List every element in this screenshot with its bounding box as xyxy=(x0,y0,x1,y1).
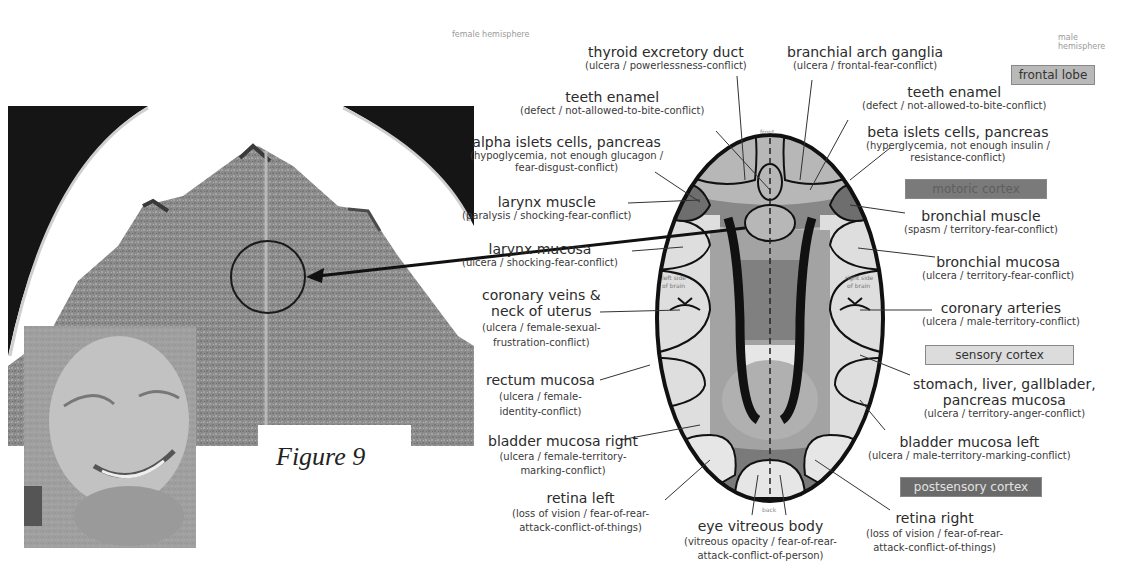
legend-frontal-lobe: frontal lobe xyxy=(1011,65,1095,85)
label-teeth-left: teeth enamel (defect / not-allowed-to-bi… xyxy=(520,89,704,117)
label-alpha-islets: alpha islets cells, pancreas (hypoglycem… xyxy=(470,134,663,173)
label-rectum-mucosa: rectum mucosa (ulcera / female- identity… xyxy=(486,372,595,417)
label-larynx-muscle: larynx muscle (paralysis / shocking-fear… xyxy=(462,194,632,222)
label-stomach: stomach, liver, gallblader, pancreas muc… xyxy=(913,376,1096,420)
label-bronchial-mucosa: bronchial mucosa (ulcera / territory-fea… xyxy=(922,254,1074,282)
label-retina-right: retina right (loss of vision / fear-of-r… xyxy=(866,510,1003,553)
label-teeth-right: teeth enamel (defect / not-allowed-to-bi… xyxy=(862,84,1046,112)
legend-motoric-cortex: motoric cortex xyxy=(905,179,1047,199)
label-coronary-veins: coronary veins & neck of uterus (ulcera … xyxy=(482,287,601,348)
label-larynx-mucosa: larynx mucosa (ulcera / shocking-fear-co… xyxy=(462,241,618,269)
label-beta-islets: beta islets cells, pancreas (hyperglycem… xyxy=(866,124,1050,163)
legend-sensory-cortex: sensory cortex xyxy=(925,345,1074,365)
label-branchial-arch: branchial arch ganglia (ulcera / frontal… xyxy=(787,44,943,72)
legend-postsensory-cortex: postsensory cortex xyxy=(900,477,1042,497)
label-vitreous-body: eye vitreous body (vitreous opacity / fe… xyxy=(684,518,837,561)
label-thyroid: thyroid excretory duct (ulcera / powerle… xyxy=(585,44,747,72)
label-bronchial-muscle: bronchial muscle (spasm / territory-fear… xyxy=(904,208,1058,236)
label-bladder-right: bladder mucosa right (ulcera / female-te… xyxy=(488,433,638,476)
label-coronary-arteries: coronary arteries (ulcera / male-territo… xyxy=(922,300,1080,328)
label-retina-left: retina left (loss of vision / fear-of-re… xyxy=(512,490,649,533)
label-bladder-left: bladder mucosa left (ulcera / male-terri… xyxy=(868,434,1071,462)
arrow-head-icon xyxy=(306,268,324,283)
